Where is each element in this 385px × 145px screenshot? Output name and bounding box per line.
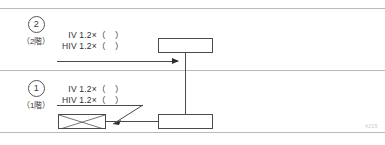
arrow-head-2f — [172, 58, 179, 64]
floor-marker-1f: 1 （1階） — [22, 80, 50, 110]
feeder-line-2f — [57, 61, 178, 62]
wire-label-iv-2f: IV 1.2×（ ） — [62, 30, 125, 41]
divider-floor-separator — [0, 70, 385, 71]
conductor-line-1f — [106, 121, 158, 122]
cross-lines-icon — [59, 115, 105, 129]
floor-number-circle-2f: 2 — [28, 16, 45, 33]
wire-label-iv-1f: IV 1.2×（ ） — [62, 84, 125, 95]
divider-top — [0, 8, 385, 9]
distribution-box-1f — [158, 114, 213, 129]
leader-arrow-1f — [100, 100, 160, 130]
floor-label-2f: （2階） — [22, 35, 50, 46]
divider-bottom — [0, 132, 385, 133]
riser-diagram-figure: 2 （2階） IV 1.2×（ ） HIV 1.2×（ ） 1 （1階） IV … — [0, 0, 385, 145]
floor-marker-2f: 2 （2階） — [22, 16, 50, 46]
wire-label-hiv-2f: HIV 1.2×（ ） — [62, 41, 125, 52]
floor-label-1f: （1階） — [22, 99, 50, 110]
distribution-box-2f — [158, 38, 213, 53]
wire-labels-2f: IV 1.2×（ ） HIV 1.2×（ ） — [62, 30, 125, 52]
floor-number-circle-1f: 1 — [28, 80, 45, 97]
crossed-terminal-box — [58, 114, 106, 129]
vertical-riser-line — [185, 52, 186, 115]
corner-reference-mark: 4205 — [365, 123, 378, 129]
